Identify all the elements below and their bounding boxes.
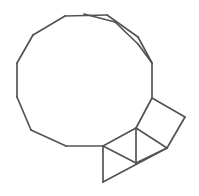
figure-canvas xyxy=(0,0,199,196)
segment-decagon-edge-top-flat xyxy=(65,15,107,16)
polygon-figure-svg xyxy=(0,0,199,196)
